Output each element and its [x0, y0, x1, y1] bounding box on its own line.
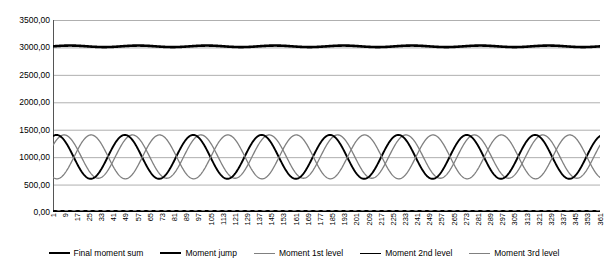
- legend-label: Moment 3rd level: [494, 249, 559, 258]
- chart-container: 0,00500,001000,001500,002000,002500,0030…: [0, 0, 608, 266]
- x-tick-label: 153: [280, 213, 288, 226]
- legend-label: Moment 1st level: [279, 249, 343, 258]
- x-tick-label: 185: [329, 213, 337, 226]
- legend-entry: Moment 1st level: [254, 249, 343, 258]
- x-tick-label: 97: [195, 213, 203, 221]
- x-tick-label: 329: [548, 213, 556, 226]
- y-tick-label: 0,00: [2, 208, 50, 217]
- x-tick-label: 257: [438, 213, 446, 226]
- legend-swatch-line-icon: [360, 253, 381, 254]
- x-tick-label: 105: [208, 213, 216, 226]
- x-tick-label: 273: [463, 213, 471, 226]
- x-tick-label: 177: [317, 213, 325, 226]
- legend-entry: Moment 2nd level: [360, 249, 452, 258]
- x-tick-label: 169: [305, 213, 313, 226]
- legend-swatch-line-icon: [49, 252, 70, 254]
- x-tick-label: 145: [268, 213, 276, 226]
- x-tick-label: 137: [256, 213, 264, 226]
- legend-entry: Moment jump: [160, 249, 237, 258]
- series-line-1: [53, 211, 600, 212]
- y-axis: 0,00500,001000,001500,002000,002500,0030…: [0, 0, 50, 266]
- series-line-4: [53, 135, 600, 179]
- x-tick-label: 233: [402, 213, 410, 226]
- series-line-0: [53, 46, 600, 48]
- x-tick-label: 225: [390, 213, 398, 226]
- x-tick-label: 9: [62, 213, 70, 217]
- x-tick-label: 353: [584, 213, 592, 226]
- x-tick-label: 25: [86, 213, 94, 221]
- plot-svg: [53, 20, 600, 212]
- x-tick-label: 113: [220, 213, 228, 225]
- x-tick-label: 201: [353, 213, 361, 226]
- x-tick-label: 281: [475, 213, 483, 226]
- y-tick-label: 3000,00: [2, 43, 50, 52]
- y-tick-label: 3500,00: [2, 16, 50, 25]
- x-tick-label: 249: [426, 213, 434, 226]
- legend-label: Moment jump: [185, 249, 237, 258]
- x-tick-label: 161: [293, 213, 301, 226]
- x-tick-label: 193: [341, 213, 349, 226]
- x-tick-label: 129: [244, 213, 252, 226]
- legend-label: Moment 2nd level: [385, 249, 452, 258]
- x-tick-label: 313: [524, 213, 532, 226]
- legend-swatch-line-icon: [469, 253, 490, 254]
- plot-area: [53, 20, 600, 212]
- chart-legend: Final moment sumMoment jumpMoment 1st le…: [0, 243, 608, 263]
- x-tick-label: 57: [135, 213, 143, 221]
- x-tick-label: 321: [536, 213, 544, 226]
- x-tick-label: 65: [147, 213, 155, 221]
- x-tick-label: 305: [511, 213, 519, 226]
- y-tick-label: 500,00: [2, 181, 50, 190]
- legend-entry: Final moment sum: [49, 249, 144, 258]
- y-tick-label: 2500,00: [2, 71, 50, 80]
- x-tick-label: 209: [366, 213, 374, 226]
- legend-swatch-line-icon: [160, 252, 181, 254]
- x-tick-label: 41: [110, 213, 118, 221]
- y-tick-label: 1500,00: [2, 126, 50, 135]
- x-tick-label: 217: [378, 213, 386, 226]
- legend-entry: Moment 3rd level: [469, 249, 559, 258]
- x-tick-label: 121: [232, 213, 240, 226]
- y-tick-label: 2000,00: [2, 98, 50, 107]
- y-tick-label: 1000,00: [2, 153, 50, 162]
- x-tick-label: 49: [122, 213, 130, 221]
- x-tick-label: 241: [414, 213, 422, 226]
- x-tick-label: 81: [171, 213, 179, 221]
- x-tick-label: 33: [98, 213, 106, 221]
- x-tick-label: 265: [451, 213, 459, 226]
- x-tick-label: 337: [560, 213, 568, 226]
- legend-swatch-line-icon: [254, 253, 275, 254]
- x-tick-label: 1: [50, 213, 58, 217]
- x-axis: 1917253341495765738189971051131211291371…: [53, 213, 600, 241]
- x-tick-label: 297: [499, 213, 507, 226]
- x-tick-label: 361: [597, 213, 605, 226]
- x-tick-label: 17: [74, 213, 82, 221]
- x-tick-label: 289: [487, 213, 495, 226]
- x-tick-label: 345: [572, 213, 580, 226]
- x-tick-label: 73: [159, 213, 167, 221]
- x-tick-label: 89: [183, 213, 191, 221]
- legend-label: Final moment sum: [74, 249, 144, 258]
